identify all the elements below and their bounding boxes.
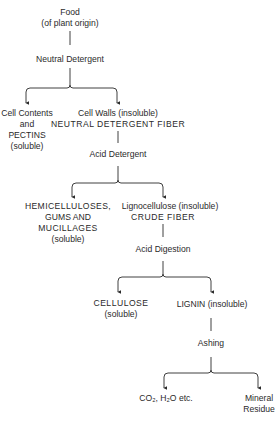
ashing-label: Ashing [198,338,224,349]
neutral-detergent-label: Neutral Detergent [36,54,104,65]
cell-walls-line2: NEUTRAL DETERGENT FIBER [51,119,185,130]
hemicelluloses-line1: HEMICELLULOSES, [25,201,111,212]
node-cell-walls: Cell Walls (insoluble) NEUTRAL DETERGENT… [51,108,185,130]
node-neutral-detergent: Neutral Detergent [36,54,104,65]
cellulose-line1: CELLULOSE [93,298,148,309]
node-acid-detergent: Acid Detergent [90,149,147,160]
mineral-residue-line2: Residue [243,404,275,415]
lignocellulose-line2: CRUDE FIBER [108,212,219,223]
mineral-residue-line1: Mineral [243,393,275,404]
cell-contents-line1: Cell Contents [1,108,53,119]
node-hemicelluloses: HEMICELLULOSES, GUMS AND MUCILLAGES (sol… [25,201,111,245]
edge-acid-digestion-lignin [163,274,211,292]
node-ashing: Ashing [198,338,224,349]
edge-acid-detergent-lignocellulose [118,180,163,197]
co2-h2o-label: CO₂, H₂O etc. [139,393,192,404]
hemicelluloses-line3: MUCILLAGES [25,223,111,234]
cell-contents-line2: and [1,119,53,130]
edge-ashing-co2-h2o [164,357,211,388]
edge-neutral-detergent-cell-contents [26,68,70,103]
edge-neutral-detergent-cell-walls [70,85,117,103]
node-lignin: LIGNIN (insoluble) [177,299,248,310]
node-acid-digestion: Acid Digestion [136,244,191,255]
hemicelluloses-line2: GUMS AND [25,212,111,223]
lignocellulose-line1: Lignocellulose (insoluble) [122,201,219,212]
edge-ashing-mineral-residue [211,370,258,388]
node-cellulose: CELLULOSE (soluble) [93,298,148,320]
edge-acid-digestion-cellulose [118,261,163,292]
node-food: Food (of plant origin) [41,7,98,29]
cell-contents-line4: (soluble) [1,141,53,152]
hemicelluloses-line4: (soluble) [25,234,111,245]
node-mineral-residue: Mineral Residue [243,393,275,415]
food-label: Food [41,7,98,18]
edge-acid-detergent-hemicelluloses [72,166,118,197]
node-lignocellulose: Lignocellulose (insoluble) CRUDE FIBER [122,201,219,223]
node-cell-contents: Cell Contents and PECTINS (soluble) [1,108,53,152]
cellulose-line2: (soluble) [93,309,148,320]
acid-detergent-label: Acid Detergent [90,149,147,160]
fiber-fractionation-diagram: Food (of plant origin) Neutral Detergent… [0,0,277,426]
node-co2-h2o: CO₂, H₂O etc. [139,393,192,404]
cell-contents-line3: PECTINS [1,130,53,141]
cell-walls-line1: Cell Walls (insoluble) [51,108,185,119]
acid-digestion-label: Acid Digestion [136,244,191,255]
lignin-label: LIGNIN (insoluble) [177,299,248,310]
food-sublabel: (of plant origin) [41,18,98,29]
